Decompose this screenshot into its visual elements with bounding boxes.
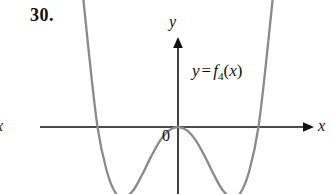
equation-lhs: y [192,61,200,80]
origin-label: 0 [162,128,170,144]
y-axis [173,37,183,194]
plot-area [0,0,332,194]
math-figure: 30. y x x 0 y=f4(x) [0,0,332,194]
x-axis-arrowhead-icon [303,122,314,132]
equation-argument: x [229,61,237,80]
equation-close-paren: ) [237,61,243,80]
x-axis-label-left: x [0,118,3,134]
problem-number: 30. [30,6,54,24]
x-axis-label-right: x [318,118,325,134]
y-axis-label: y [169,14,176,30]
function-equation-label: y=f4(x) [192,62,242,82]
y-axis-arrowhead-icon [173,37,183,48]
equation-equals: = [200,61,214,80]
